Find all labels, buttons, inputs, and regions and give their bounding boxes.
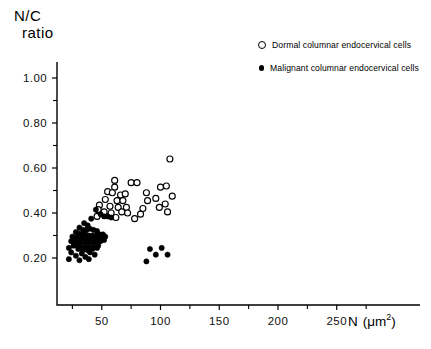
y-tick-label: 0.80 [23, 117, 47, 129]
data-point-normal [169, 193, 175, 199]
data-point-normal [156, 204, 162, 210]
data-point-normal [158, 184, 164, 190]
axes-group [57, 62, 420, 305]
x-axis-title-unit-close: ) [391, 314, 396, 329]
data-point-normal [162, 201, 168, 207]
data-point-malignant [77, 258, 82, 263]
data-point-normal [102, 197, 108, 203]
data-point-normal [109, 190, 115, 196]
tick-labels-group: 0.200.400.600.801.0050100150200250 [23, 72, 347, 327]
y-tick-label: 0.40 [23, 207, 47, 219]
data-point-malignant [144, 259, 149, 264]
x-axis-title: N(μm2) [348, 312, 396, 330]
data-point-normal [128, 180, 134, 186]
x-tick-label: 50 [95, 315, 109, 327]
legend-label-malignant: Malignant columnar endocervical cells [270, 63, 419, 73]
data-point-malignant [69, 250, 74, 255]
y-tick-label: 0.60 [23, 162, 47, 174]
data-point-normal [145, 198, 151, 204]
data-point-normal [153, 195, 159, 201]
x-tick-label: 200 [268, 315, 288, 327]
data-point-malignant [92, 252, 97, 257]
data-point-malignant [94, 245, 99, 250]
data-point-malignant [76, 246, 81, 251]
legend-entry-normal: Dormal columnar endocervical cells [258, 40, 419, 50]
data-point-malignant [86, 257, 91, 262]
data-point-normal [114, 198, 120, 204]
data-point-malignant [153, 252, 158, 257]
y-axis-title: N/C ratio [14, 8, 54, 42]
data-point-normal [138, 211, 144, 217]
data-point-malignant [93, 207, 98, 212]
y-axis-title-line2: ratio [22, 25, 54, 42]
data-point-normal [165, 209, 171, 215]
legend-label-normal: Dormal columnar endocervical cells [272, 40, 411, 50]
data-point-malignant [159, 245, 164, 250]
data-point-normal [163, 183, 169, 189]
data-point-malignant [109, 215, 114, 220]
x-tick-label: 100 [150, 315, 170, 327]
data-point-malignant [66, 257, 71, 262]
data-point-normal [167, 156, 173, 162]
data-point-malignant [147, 246, 152, 251]
x-axis-title-unit-open: (μm [363, 314, 387, 329]
data-point-malignant [89, 216, 94, 221]
data-point-normal [107, 203, 113, 209]
data-point-normal [119, 209, 125, 215]
series-normal-points [94, 156, 175, 222]
y-axis-title-line1: N/C [14, 8, 54, 25]
legend-entry-malignant: Malignant columnar endocervical cells [258, 63, 419, 73]
data-point-normal [143, 190, 149, 196]
x-tick-label: 150 [209, 315, 229, 327]
data-point-malignant [73, 253, 78, 258]
ticks-group [52, 78, 366, 310]
data-point-malignant [165, 252, 170, 257]
legend: Dormal columnar endocervical cells Malig… [258, 40, 419, 73]
data-point-normal [120, 198, 126, 204]
filled-circle-icon [259, 65, 265, 71]
data-point-malignant [102, 237, 107, 242]
data-point-normal [125, 210, 131, 216]
scatter-plot-figure: 0.200.400.600.801.0050100150200250 N/C r… [0, 0, 431, 349]
y-tick-label: 1.00 [23, 72, 47, 84]
x-tick-label: 250 [327, 315, 347, 327]
open-circle-icon [258, 41, 266, 49]
data-point-normal [112, 177, 118, 183]
x-axis-title-symbol: N [348, 314, 358, 329]
data-point-normal [134, 180, 140, 186]
data-point-normal [132, 216, 138, 222]
data-point-malignant [87, 250, 92, 255]
y-tick-label: 0.20 [23, 252, 47, 264]
data-point-normal [122, 191, 128, 197]
